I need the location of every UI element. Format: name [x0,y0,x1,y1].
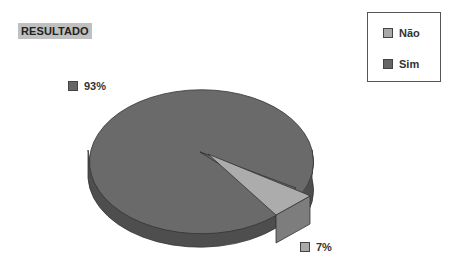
data-label-nao-text: 7% [316,241,332,253]
legend-swatch-nao [383,28,393,38]
data-label-sim: 93% [68,80,106,92]
legend-label-sim: Sim [399,58,419,70]
data-label-nao: 7% [300,241,332,253]
data-label-swatch-nao [300,242,310,252]
data-label-swatch-sim [68,81,78,91]
data-label-sim-text: 93% [84,80,106,92]
legend-item-nao: Não [383,27,420,39]
chart-legend: Não Sim [367,12,441,82]
legend-swatch-sim [383,59,393,69]
legend-item-sim: Sim [383,58,419,70]
legend-label-nao: Não [399,27,420,39]
